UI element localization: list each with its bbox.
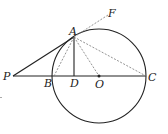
label-p: P [2, 70, 11, 83]
segment-af [74, 15, 108, 37]
label-b: B [43, 77, 52, 90]
segment-ao [74, 37, 99, 76]
label-o: O [95, 78, 104, 91]
scan-mark [0, 97, 2, 98]
segment-ac [74, 37, 146, 76]
geometry-diagram: P B D O C A F [0, 0, 168, 134]
label-f: F [107, 7, 116, 20]
label-d: D [69, 77, 79, 90]
label-c: C [148, 71, 157, 84]
segment-pa [13, 37, 74, 76]
label-a: A [68, 25, 77, 38]
